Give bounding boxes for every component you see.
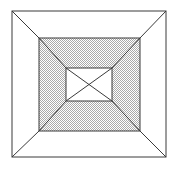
figure-canvas: Nested squares perspective figure Three … xyxy=(0,0,178,169)
nested-squares-figure: Nested squares perspective figure Three … xyxy=(0,0,178,169)
